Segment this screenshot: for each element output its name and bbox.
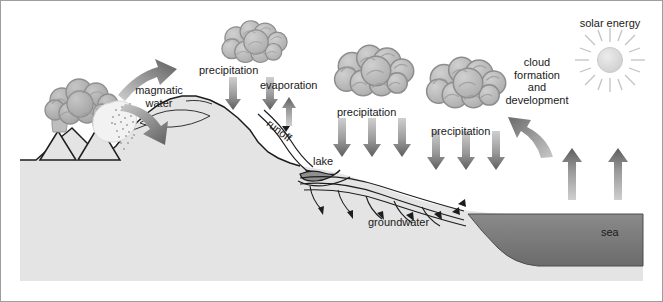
label-precipitation-2: precipitation [337, 106, 396, 119]
magmatic-water-line-1: magmatic [135, 84, 183, 96]
diagram-canvas [0, 0, 663, 302]
cloud-formation-line-2: formation [514, 69, 560, 81]
label-groundwater: groundwater [368, 216, 429, 229]
label-precipitation-1: precipitation [199, 64, 258, 77]
label-solar-energy: solar energy [565, 17, 655, 30]
magmatic-water-line-2: water [146, 97, 173, 109]
cloud-formation-line-1: cloud [524, 56, 550, 68]
cloud-formation-line-4: development [506, 94, 569, 106]
water-cycle-diagram: magmatic water precipitation evaporation… [0, 0, 663, 302]
precipitation-arrows-2 [333, 118, 411, 157]
label-lake: lake [313, 155, 333, 168]
label-cloud-formation: cloud formation and development [492, 56, 582, 106]
label-sea: sea [601, 226, 619, 239]
cloud-formation-line-3: and [528, 81, 546, 93]
label-precipitation-3: precipitation [431, 125, 490, 138]
label-evaporation: evaporation [260, 79, 318, 92]
label-magmatic-water: magmatic water [128, 84, 190, 109]
